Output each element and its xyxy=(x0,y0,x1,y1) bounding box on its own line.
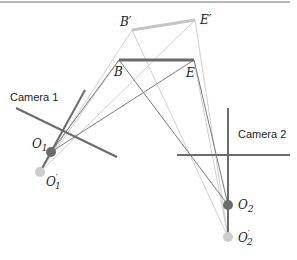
camera-1-center-o1-prime xyxy=(35,167,45,177)
label-b-prime: B′ xyxy=(119,15,132,29)
label-camera-1: Camera 1 xyxy=(10,91,58,103)
label-e-prime: E′ xyxy=(199,13,212,27)
dark-projection-rays xyxy=(51,60,228,205)
label-e: E xyxy=(185,66,195,80)
label-b: B xyxy=(113,65,123,79)
diagram-canvas: B′ E′ B E O1 O′1 O2 O′2 Camera 1 Camera … xyxy=(0,0,297,260)
label-o2: O2 xyxy=(238,198,254,214)
camera-2-center-o2-prime xyxy=(223,232,233,242)
label-o2-prime: O′2 xyxy=(238,229,253,247)
camera-1 xyxy=(16,90,117,177)
label-camera-2: Camera 2 xyxy=(238,128,286,140)
label-o1-prime: O′1 xyxy=(46,173,61,191)
segment-b-prime-e-prime xyxy=(132,20,195,30)
label-o1: O1 xyxy=(32,137,48,153)
camera-2-center-o2 xyxy=(223,200,233,210)
